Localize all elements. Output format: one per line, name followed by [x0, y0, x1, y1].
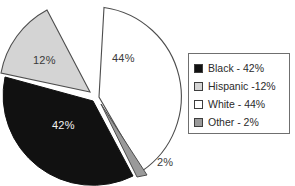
legend-label-other: Other - 2% [208, 117, 259, 128]
pie-label-white: 44% [112, 52, 135, 64]
pie-label-black: 42% [52, 119, 75, 131]
legend-swatch-other [194, 118, 203, 127]
legend-label-hispanic: Hispanic -12% [208, 81, 276, 92]
legend-label-white: White - 44% [208, 99, 265, 110]
pie-chart-figure: 44% 42% 12% 2% Black - 42% Hispanic -12%… [0, 0, 295, 186]
legend-item-black[interactable]: Black - 42% [194, 59, 289, 77]
legend-swatch-hispanic [194, 82, 203, 91]
legend-item-hispanic[interactable]: Hispanic -12% [194, 77, 289, 95]
legend-label-black: Black - 42% [208, 63, 264, 74]
legend-swatch-white [194, 100, 203, 109]
legend-item-white[interactable]: White - 44% [194, 95, 289, 113]
pie-label-other: 2% [157, 156, 173, 168]
pie-label-hispanic: 12% [33, 54, 56, 66]
legend-swatch-black [194, 64, 203, 73]
legend-item-other[interactable]: Other - 2% [194, 113, 289, 131]
legend: Black - 42% Hispanic -12% White - 44% Ot… [188, 53, 290, 134]
